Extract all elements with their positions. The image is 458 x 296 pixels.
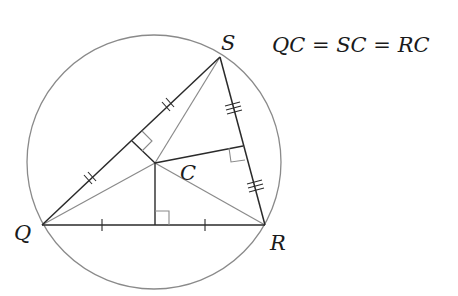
right-angle-SR [229, 148, 245, 162]
side-SR [220, 57, 265, 225]
ticks-QS [84, 98, 174, 184]
right-angle-QR [155, 211, 169, 225]
equation-text: QC = SC = RC [272, 33, 430, 57]
radii [42, 57, 265, 225]
label-R: R [269, 231, 286, 255]
triangle-QRS [42, 57, 265, 225]
side-QS [42, 57, 220, 225]
right-angle-QS [142, 131, 152, 151]
label-C: C [180, 161, 196, 185]
label-Q: Q [14, 221, 31, 245]
label-S: S [221, 31, 235, 55]
radius-CR [155, 163, 265, 225]
bisector-QS [132, 141, 155, 163]
circumcircle-diagram: S Q R C QC = SC = RC [0, 0, 458, 296]
